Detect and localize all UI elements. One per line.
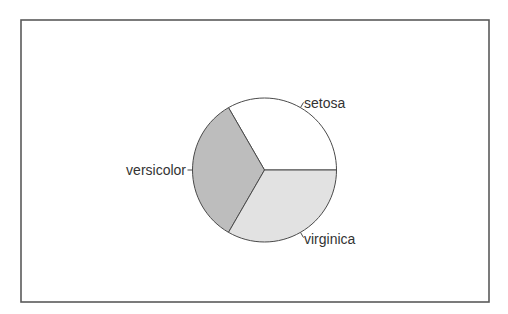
pie-slices (193, 98, 337, 242)
label-virginica: virginica (304, 231, 356, 247)
label-versicolor: versicolor (126, 162, 186, 178)
label-setosa: setosa (304, 95, 345, 111)
pie-chart: setosa versicolor virginica (0, 0, 508, 314)
